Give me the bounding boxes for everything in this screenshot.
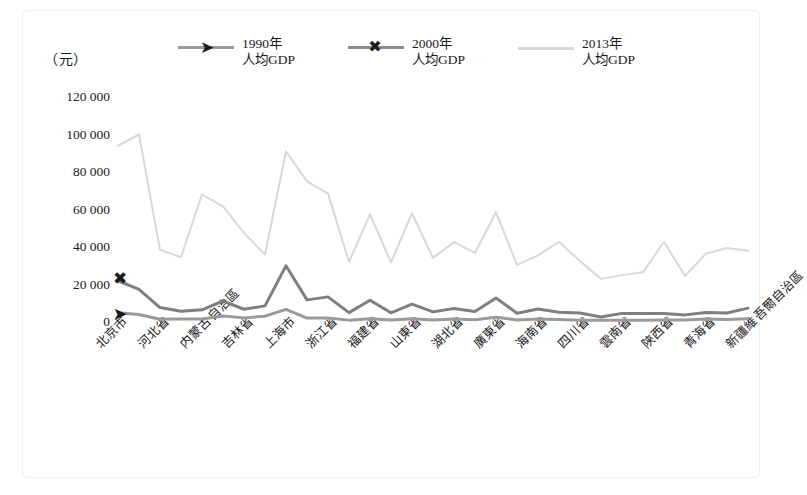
series-line-2 <box>118 266 748 317</box>
series-line-3 <box>118 135 748 279</box>
greater-than-marker-icon-plot: ➤ <box>112 303 127 324</box>
cross-x-marker-icon-plot: ✖ <box>113 268 127 288</box>
